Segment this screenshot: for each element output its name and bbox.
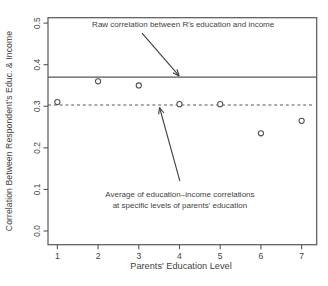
data-point xyxy=(95,79,100,84)
annotation-line: Raw correlation between R's education an… xyxy=(92,20,274,31)
y-tick-label: 0.3 xyxy=(32,100,42,112)
average-correlation-label-arrow xyxy=(160,108,180,182)
x-tick-label: 7 xyxy=(299,251,304,261)
y-tick-label: 0.0 xyxy=(32,225,42,237)
plot-canvas: 0.00.10.20.30.40.51234567 xyxy=(0,0,328,286)
annotation-line: at specific levels of parents' education xyxy=(105,201,254,212)
x-tick-label: 1 xyxy=(55,251,60,261)
annotation-average-correlation: Average of education–income correlations… xyxy=(105,191,254,212)
average-correlation-label-arrow-head xyxy=(159,108,160,115)
annotation-raw-correlation: Raw correlation between R's education an… xyxy=(92,20,274,31)
x-tick-label: 6 xyxy=(259,251,264,261)
annotation-line: Average of education–income correlations xyxy=(105,191,254,202)
y-tick-label: 0.5 xyxy=(32,17,42,29)
y-tick-label: 0.4 xyxy=(32,59,42,71)
x-tick-label: 3 xyxy=(136,251,141,261)
y-axis-label: Correlation Between Respondent's Educ. &… xyxy=(4,31,14,231)
data-point xyxy=(218,102,223,107)
data-point xyxy=(258,131,263,136)
data-point xyxy=(136,83,141,88)
data-point xyxy=(55,99,60,104)
data-point xyxy=(177,102,182,107)
x-tick-label: 5 xyxy=(218,251,223,261)
data-point xyxy=(299,118,304,123)
x-tick-label: 4 xyxy=(177,251,182,261)
scatter-plot-figure: 0.00.10.20.30.40.51234567 Correlation Be… xyxy=(0,0,328,286)
y-tick-label: 0.1 xyxy=(32,183,42,195)
y-tick-label: 0.2 xyxy=(32,142,42,154)
x-tick-label: 2 xyxy=(96,251,101,261)
x-axis-label: Parents' Education Level xyxy=(130,261,231,271)
raw-correlation-label-arrow xyxy=(142,33,179,76)
